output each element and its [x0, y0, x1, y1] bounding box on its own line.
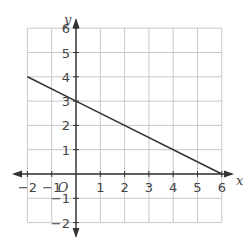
- x-tick-label: 5: [193, 180, 201, 195]
- x-axis-label: x: [236, 173, 244, 188]
- x-tick-label: 3: [145, 180, 153, 195]
- y-tick-label: 4: [62, 70, 70, 85]
- y-tick-label: 3: [62, 94, 70, 109]
- origin-label: O: [58, 180, 69, 195]
- y-axis-label: y: [63, 12, 72, 27]
- x-tick-label: 2: [120, 180, 128, 195]
- y-tick-label: 2: [62, 118, 70, 133]
- x-axis-arrow-right-icon: [224, 171, 234, 178]
- x-tick-label: 1: [96, 180, 104, 195]
- x-tick-label: 6: [218, 180, 226, 195]
- axes: [12, 18, 234, 238]
- x-tick-label: −2: [18, 180, 37, 195]
- x-axis-arrow-left-icon: [12, 171, 22, 178]
- y-tick-label: 5: [62, 46, 70, 61]
- x-tick-label: 4: [169, 180, 177, 195]
- y-tick-label: 1: [62, 143, 70, 158]
- y-axis-arrow-up-icon: [73, 18, 80, 28]
- y-axis-arrow-down-icon: [73, 228, 80, 238]
- y-tick-label: −2: [51, 216, 70, 231]
- coordinate-plane: −2−1123456654321−1−2Oxy: [0, 0, 247, 248]
